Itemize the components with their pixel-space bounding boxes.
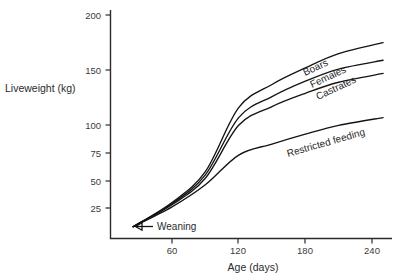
axis-frame [111,10,393,239]
y-tick-marks [106,15,111,208]
y-tick-label-50: 50 [90,176,101,187]
weaning-label: Weaning [157,221,196,232]
x-tick-label-120: 120 [230,245,246,256]
x-axis-title: Age (days) [228,261,279,273]
weaning-annotation: Weaning [136,221,197,232]
axes-group [111,10,393,239]
x-tick-label-240: 240 [364,245,380,256]
x-tick-label-60: 60 [167,245,178,256]
liveweight-growth-chart: 200 150 100 75 50 25 60 120 180 240 Live… [0,0,395,276]
y-tick-label-150: 150 [85,65,101,76]
y-tick-label-25: 25 [90,203,101,214]
x-tick-marks [172,239,372,244]
y-tick-label-200: 200 [85,10,101,21]
x-tick-labels: 60 120 180 240 [167,245,380,256]
y-axis-title: Liveweight (kg) [5,82,76,94]
y-tick-labels: 200 150 100 75 50 25 [85,10,101,214]
series-label-restricted-feeding: Restricted feeding [286,126,367,159]
y-tick-label-75: 75 [90,148,101,159]
x-tick-label-180: 180 [297,245,313,256]
y-tick-label-100: 100 [85,120,101,131]
chart-canvas: 200 150 100 75 50 25 60 120 180 240 Live… [0,0,395,276]
